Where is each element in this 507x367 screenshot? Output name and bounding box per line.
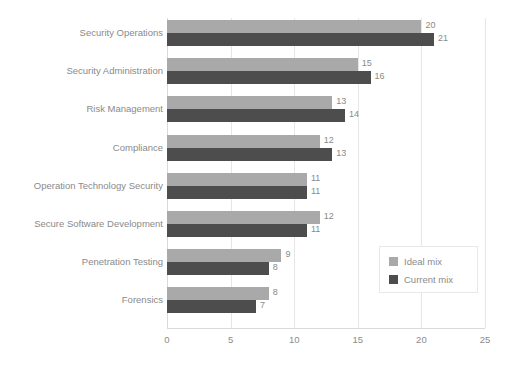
- x-tick-0: 0: [164, 334, 169, 345]
- bar-group: 1111: [167, 173, 485, 201]
- bar-current: [167, 186, 307, 199]
- category-label-wrap: Risk Management: [0, 96, 163, 124]
- bar-ideal: [167, 249, 281, 262]
- x-tick-10: 10: [289, 334, 300, 345]
- bar-value-label-ideal: 15: [362, 57, 372, 70]
- legend-item-current-mix: Current mix: [389, 272, 453, 286]
- legend-label-current-mix: Current mix: [404, 274, 453, 285]
- bar-ideal: [167, 20, 421, 33]
- bar-current: [167, 262, 269, 275]
- bar-ideal: [167, 211, 320, 224]
- category-label-wrap: Secure Software Development: [0, 211, 163, 239]
- bar-value-label-ideal: 8: [273, 286, 278, 299]
- category-label: Operation Technology Security: [3, 173, 163, 199]
- bar-value-label-ideal: 11: [311, 172, 320, 185]
- x-tick-5: 5: [228, 334, 233, 345]
- bar-value-label-ideal: 12: [324, 134, 334, 147]
- legend-label-ideal-mix: Ideal mix: [404, 256, 442, 267]
- category-label-wrap: Security Operations: [0, 20, 163, 48]
- category-label-wrap: Compliance: [0, 135, 163, 163]
- bar-current: [167, 148, 332, 161]
- bar-value-label-current: 21: [438, 32, 448, 45]
- bar-value-label-ideal: 12: [324, 210, 334, 223]
- category-label: Secure Software Development: [3, 211, 163, 237]
- bar-group: 1516: [167, 58, 485, 86]
- bar-value-label-ideal: 9: [285, 248, 290, 261]
- category-label-wrap: Security Administration: [0, 58, 163, 86]
- bar-value-label-current: 13: [336, 147, 346, 160]
- bar-value-label-current: 11: [311, 185, 320, 198]
- bar-value-label-current: 16: [375, 70, 385, 83]
- bar-ideal: [167, 287, 269, 300]
- category-label-wrap: Operation Technology Security: [0, 173, 163, 201]
- bar-current: [167, 71, 371, 84]
- bar-current: [167, 33, 434, 46]
- gridline-25: [485, 18, 486, 328]
- x-tick-25: 25: [480, 334, 491, 345]
- legend-swatch-icon-ideal-mix: [389, 257, 398, 266]
- category-label: Security Administration: [3, 58, 163, 84]
- x-tick-20: 20: [416, 334, 427, 345]
- x-tick-15: 15: [353, 334, 364, 345]
- x-axis-line: [167, 328, 485, 329]
- category-label: Security Operations: [3, 20, 163, 46]
- category-label: Forensics: [3, 287, 163, 313]
- bar-value-label-current: 8: [273, 261, 278, 274]
- bar-value-label-current: 7: [260, 299, 265, 312]
- bar-ideal: [167, 135, 320, 148]
- bar-group: 1314: [167, 96, 485, 124]
- category-label: Compliance: [3, 135, 163, 161]
- bar-group: 1213: [167, 135, 485, 163]
- bar-value-label-ideal: 13: [336, 95, 346, 108]
- category-label: Risk Management: [3, 96, 163, 122]
- bar-value-label-current: 11: [311, 223, 320, 236]
- bar-value-label-current: 14: [349, 108, 359, 121]
- bar-current: [167, 300, 256, 313]
- bar-ideal: [167, 58, 358, 71]
- bar-chart: 2021151613141213111112119887 Security Op…: [0, 0, 507, 367]
- category-label-wrap: Penetration Testing: [0, 249, 163, 277]
- bar-ideal: [167, 173, 307, 186]
- bar-group: 1211: [167, 211, 485, 239]
- bar-group: 2021: [167, 20, 485, 48]
- bar-ideal: [167, 96, 332, 109]
- bar-value-label-ideal: 20: [425, 19, 435, 32]
- category-label-wrap: Forensics: [0, 287, 163, 315]
- legend-item-ideal-mix: Ideal mix: [389, 254, 442, 268]
- bar-current: [167, 224, 307, 237]
- category-label: Penetration Testing: [3, 249, 163, 275]
- chart-legend: Ideal mix Current mix: [379, 246, 478, 293]
- legend-swatch-icon-current-mix: [389, 275, 398, 284]
- bar-current: [167, 109, 345, 122]
